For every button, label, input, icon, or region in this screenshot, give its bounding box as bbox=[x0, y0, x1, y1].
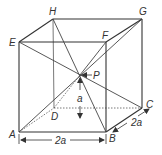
label-F: F bbox=[102, 30, 109, 41]
label-C: C bbox=[146, 99, 154, 110]
width-label: 2a bbox=[54, 135, 67, 146]
cube-diagram: a P 2a 2a H G E F A B C D bbox=[0, 0, 162, 155]
line-AG bbox=[19, 19, 142, 132]
label-G: G bbox=[139, 6, 147, 17]
depth-arrow-down bbox=[113, 123, 127, 132]
width-dimension: 2a bbox=[19, 134, 106, 146]
label-P: P bbox=[93, 70, 100, 81]
depth-label: 2a bbox=[130, 117, 143, 128]
pyramid-lines bbox=[19, 19, 142, 132]
label-B: B bbox=[109, 133, 116, 144]
height-dimension: a bbox=[77, 78, 83, 118]
label-E: E bbox=[9, 37, 16, 48]
edge-DH bbox=[53, 19, 54, 108]
edge-EH bbox=[19, 19, 53, 42]
depth-dimension: 2a bbox=[113, 109, 149, 132]
label-A: A bbox=[8, 129, 16, 140]
edge-FG bbox=[106, 19, 142, 42]
label-D: D bbox=[51, 111, 58, 122]
height-label: a bbox=[77, 93, 83, 104]
edge-AD bbox=[19, 108, 54, 132]
label-H: H bbox=[49, 6, 57, 17]
